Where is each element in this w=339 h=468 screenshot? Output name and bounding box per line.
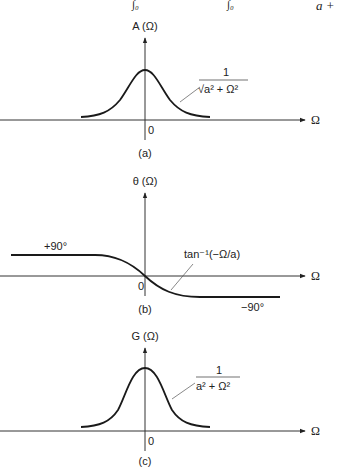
- origin-label-c: 0: [148, 435, 154, 447]
- y-label-a: A (Ω): [132, 20, 157, 32]
- x-label-a: Ω: [311, 113, 320, 127]
- header-right: a +: [316, 0, 335, 13]
- formula-a-numerator: 1: [223, 66, 229, 78]
- leader-c: [172, 383, 195, 399]
- y-label-c: G (Ω): [131, 330, 158, 342]
- pos-90-label: +90°: [44, 240, 67, 252]
- panel-a: A (Ω) Ω 0 1 √a² + Ω² (a): [0, 20, 320, 159]
- neg-90-label: −90°: [241, 301, 264, 313]
- caption-c: (c): [139, 455, 152, 467]
- y-label-b: θ (Ω): [133, 175, 158, 187]
- leader-a: [180, 87, 200, 102]
- x-label-c: Ω: [311, 424, 320, 438]
- formula-a-denominator: √a² + Ω²: [198, 83, 239, 95]
- leader-b: [171, 264, 193, 290]
- formula-c-numerator: 1: [216, 364, 222, 376]
- caption-a: (a): [138, 147, 151, 159]
- header-integral-left: ∫₀: [131, 0, 139, 11]
- x-label-b: Ω: [311, 269, 320, 283]
- panel-c: G (Ω) Ω 0 1 a² + Ω² (c): [0, 330, 320, 467]
- formula-b: tan⁻¹(−Ω/a): [184, 248, 240, 260]
- header-integral-middle: ∫₀: [226, 0, 234, 11]
- caption-b: (b): [138, 303, 151, 315]
- figure: ∫₀ ∫₀ a + A (Ω) Ω 0 1 √a² + Ω² (a) θ (Ω)…: [0, 0, 339, 468]
- formula-c-denominator: a² + Ω²: [196, 380, 231, 392]
- panel-b: θ (Ω) Ω 0 +90° −90° tan⁻¹(−Ω/a) (b): [0, 175, 320, 315]
- origin-label-b: 0: [138, 280, 144, 292]
- header-fragment: ∫₀ ∫₀ a +: [131, 0, 335, 13]
- origin-label-a: 0: [148, 124, 154, 136]
